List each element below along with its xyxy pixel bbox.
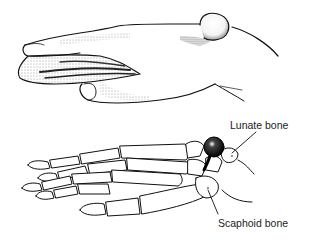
little-middle-phalanx (54, 186, 78, 198)
ring-proximal-phalanx (72, 172, 112, 184)
trapezium (186, 141, 204, 158)
index-metacarpal (120, 144, 189, 160)
hand-skeleton (22, 132, 256, 216)
little-distal-phalanx (36, 191, 54, 199)
lunate-bone-label: Lunate bone (230, 120, 288, 131)
radius-line (222, 190, 252, 202)
capitate (188, 159, 206, 176)
little-proximal-phalanx (78, 184, 110, 194)
ganglion-cyst (200, 13, 229, 40)
ring-distal-phalanx (22, 183, 42, 191)
lunate-leader-line (232, 132, 256, 153)
index-distal-phalanx (28, 161, 50, 169)
hand-shading (100, 80, 150, 101)
wrist-upper-line (232, 27, 278, 56)
ulna-line (238, 160, 254, 174)
index-middle-phalanx (50, 156, 80, 168)
wrist-lower-line (215, 84, 244, 101)
thumbnail (84, 83, 96, 100)
scaphoid-bone-label: Scaphoid bone (218, 218, 288, 229)
hand-exterior (18, 13, 278, 103)
thumb-distal-phalanx (80, 203, 106, 215)
thumb-proximal-phalanx (106, 198, 140, 216)
lunate-bone (204, 137, 224, 157)
